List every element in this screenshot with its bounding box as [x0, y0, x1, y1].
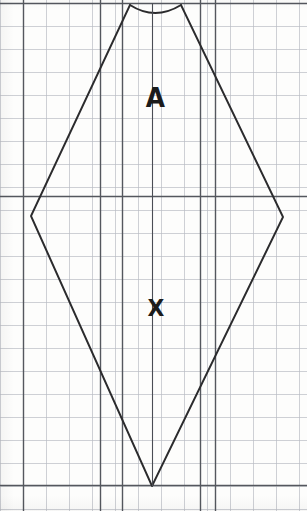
- geometry-figure-canvas: [0, 0, 307, 511]
- grid-paper-page: A X: [0, 0, 307, 511]
- concave-top-arc-path: [130, 5, 181, 13]
- kite-outline-path: [31, 5, 283, 486]
- kite-shape-group: [31, 3, 283, 486]
- grid-minor-lines: [0, 0, 307, 511]
- grid-major-lines: [0, 0, 307, 511]
- vertex-label-x: X: [147, 297, 164, 320]
- vertex-label-a: A: [146, 84, 164, 111]
